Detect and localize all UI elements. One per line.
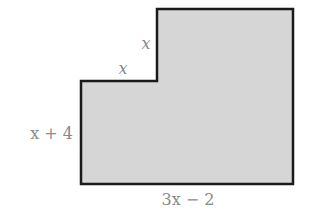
- l-shape-diagram: x x x + 4 3x − 2: [0, 0, 315, 213]
- notch-width-label: x: [118, 59, 127, 78]
- notch-height-label: x: [141, 34, 150, 53]
- l-shape: [81, 9, 293, 184]
- left-side-label: x + 4: [30, 124, 73, 143]
- bottom-side-label: 3x − 2: [162, 190, 215, 209]
